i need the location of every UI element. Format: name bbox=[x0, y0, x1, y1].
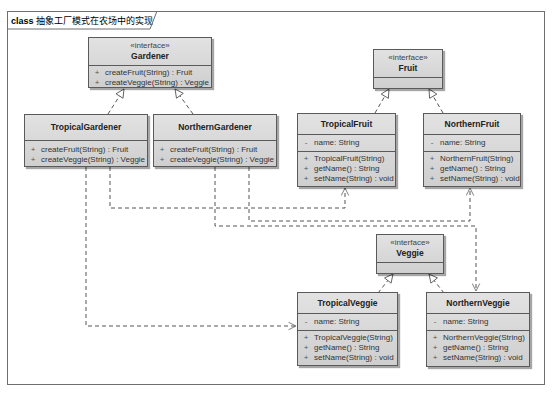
operation-row: +getName() : String bbox=[427, 343, 529, 353]
class-name: NorthernVeggie bbox=[429, 298, 527, 309]
class-name: Fruit bbox=[376, 63, 440, 74]
class-name: NorthernFruit bbox=[426, 119, 518, 130]
operations-section: +TropicalVeggie(String) +getName() : Str… bbox=[298, 331, 397, 365]
attributes-section: -name: String bbox=[298, 314, 397, 331]
operation-row: +getName() : String bbox=[298, 164, 395, 174]
operations-section: +NorthernFruit(String) +getName() : Stri… bbox=[424, 152, 520, 186]
attribute-row: -name: String bbox=[298, 317, 397, 327]
class-fruit[interactable]: «interface» Fruit bbox=[373, 49, 443, 89]
operations-section: +NorthernVeggie(String) +getName() : Str… bbox=[427, 331, 529, 365]
realization-tropicalgardener-gardener bbox=[108, 89, 124, 114]
operations-section: +createFruit(String) : Fruit +createVegg… bbox=[89, 66, 211, 90]
realization-northernfruit-fruit bbox=[429, 89, 443, 113]
operation-row: +setName(String) : void bbox=[298, 174, 395, 184]
class-header: «interface» Gardener bbox=[89, 38, 211, 66]
class-name: TropicalFruit bbox=[300, 119, 393, 130]
realization-tropicalveggie-veggie bbox=[378, 274, 393, 293]
class-name: TropicalVeggie bbox=[300, 298, 395, 309]
class-header: «interface» Veggie bbox=[377, 235, 443, 263]
class-header: «interface» Fruit bbox=[374, 50, 442, 78]
operation-row: +createFruit(String) : Fruit bbox=[154, 145, 276, 155]
operation-row: +createFruit(String) : Fruit bbox=[89, 68, 211, 78]
empty-section bbox=[374, 78, 442, 90]
stereotype-label: «interface» bbox=[91, 41, 209, 51]
class-tropical-fruit[interactable]: TropicalFruit -name: String +TropicalFru… bbox=[297, 113, 396, 187]
class-northern-veggie[interactable]: NorthernVeggie -name: String +NorthernVe… bbox=[426, 292, 530, 367]
operation-row: +getName() : String bbox=[298, 343, 397, 353]
class-gardener[interactable]: «interface» Gardener +createFruit(String… bbox=[88, 37, 212, 88]
operation-row: +createVeggie(String) : Veggie bbox=[89, 78, 211, 88]
operations-section: +TropicalFruit(String) +getName() : Stri… bbox=[298, 152, 395, 186]
operation-row: +getName() : String bbox=[424, 164, 520, 174]
attributes-section: -name: String bbox=[427, 314, 529, 331]
operations-section: +createFruit(String) : Fruit +createVegg… bbox=[154, 141, 276, 167]
operation-row: +setName(String) : void bbox=[424, 174, 520, 184]
class-tropical-gardener[interactable]: TropicalGardener +createFruit(String) : … bbox=[24, 114, 148, 167]
realization-tropicalfruit-fruit bbox=[375, 89, 389, 113]
empty-section bbox=[377, 263, 443, 275]
attribute-row: -name: String bbox=[424, 138, 520, 148]
operation-row: +createFruit(String) : Fruit bbox=[25, 145, 147, 155]
class-header: NorthernGardener bbox=[154, 115, 276, 141]
frame-tab-outline bbox=[7, 11, 157, 29]
operation-row: +NorthernFruit(String) bbox=[424, 154, 520, 164]
class-header: TropicalGardener bbox=[25, 115, 147, 141]
dependency-tropicalgardener-tropicalveggie bbox=[86, 167, 296, 326]
operation-row: +setName(String) : void bbox=[427, 353, 529, 363]
class-header: TropicalVeggie bbox=[298, 293, 397, 314]
attribute-row: -name: String bbox=[427, 317, 529, 327]
class-name: Veggie bbox=[379, 248, 441, 259]
class-name: Gardener bbox=[91, 51, 209, 62]
class-veggie[interactable]: «interface» Veggie bbox=[376, 234, 444, 274]
class-name: NorthernGardener bbox=[156, 122, 274, 133]
class-northern-gardener[interactable]: NorthernGardener +createFruit(String) : … bbox=[153, 114, 277, 167]
class-header: TropicalFruit bbox=[298, 114, 395, 135]
class-header: NorthernFruit bbox=[424, 114, 520, 135]
attributes-section: -name: String bbox=[424, 135, 520, 152]
class-tropical-veggie[interactable]: TropicalVeggie -name: String +TropicalVe… bbox=[297, 292, 398, 366]
operation-row: +setName(String) : void bbox=[298, 353, 397, 363]
class-name: TropicalGardener bbox=[27, 122, 145, 133]
class-northern-fruit[interactable]: NorthernFruit -name: String +NorthernFru… bbox=[423, 113, 521, 187]
operation-row: +TropicalFruit(String) bbox=[298, 154, 395, 164]
stereotype-label: «interface» bbox=[379, 238, 441, 248]
attribute-row: -name: String bbox=[298, 138, 395, 148]
operation-row: +createVeggie(String) : Veggie bbox=[154, 155, 276, 165]
operations-section: +createFruit(String) : Fruit +createVegg… bbox=[25, 141, 147, 167]
operation-row: +NorthernVeggie(String) bbox=[427, 333, 529, 343]
operation-row: +TropicalVeggie(String) bbox=[298, 333, 397, 343]
realization-northernveggie-veggie bbox=[429, 274, 444, 293]
class-header: NorthernVeggie bbox=[427, 293, 529, 314]
stereotype-label: «interface» bbox=[376, 53, 440, 63]
realization-northerngardener-gardener bbox=[175, 89, 193, 114]
attributes-section: -name: String bbox=[298, 135, 395, 152]
operation-row: +createVeggie(String) : Veggie bbox=[25, 155, 147, 165]
